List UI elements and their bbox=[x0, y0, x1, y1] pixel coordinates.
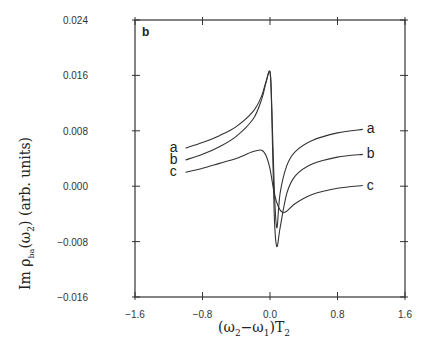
curves bbox=[186, 71, 363, 247]
curve-label-right-b: b bbox=[367, 145, 375, 161]
x-tick-label: −1.6 bbox=[125, 309, 145, 320]
curve-b bbox=[186, 71, 363, 247]
x-tick-label: 0.8 bbox=[331, 309, 345, 320]
y-tick-label: 0.016 bbox=[63, 70, 88, 81]
x-tick-label: −0.8 bbox=[193, 309, 213, 320]
y-axis-title: Im ρba(ω2) (arb. units) bbox=[17, 137, 36, 290]
y-tick-label: 0.024 bbox=[63, 15, 88, 26]
chart: −1.6−0.80.00.81.60.0240.0160.0080.000−0.… bbox=[0, 0, 424, 347]
panel-label: b bbox=[142, 25, 149, 39]
curve-label-right-a: a bbox=[367, 120, 375, 136]
curve-label-right-c: c bbox=[367, 177, 374, 193]
x-axis-title: (ω2−ω1)T2 bbox=[218, 319, 290, 338]
y-tick-label: −0.016 bbox=[57, 292, 88, 303]
y-tick-label: −0.008 bbox=[57, 237, 88, 248]
ticks: −1.6−0.80.00.81.60.0240.0160.0080.000−0.… bbox=[57, 15, 412, 320]
curve-label-left-c: c bbox=[170, 163, 177, 179]
y-tick-label: 0.000 bbox=[63, 181, 88, 192]
y-tick-label: 0.008 bbox=[63, 126, 88, 137]
x-tick-label: 1.6 bbox=[398, 309, 412, 320]
